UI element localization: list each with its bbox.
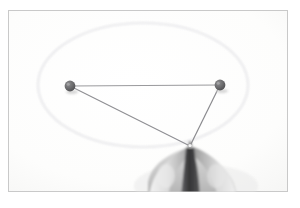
pin-left-highlight <box>67 83 70 86</box>
ellipse-construction-photo <box>0 0 300 208</box>
pin-right-highlight <box>217 82 220 85</box>
thumb-highlight <box>157 164 175 188</box>
index-finger-highlight <box>207 164 225 188</box>
screenshot-root: Ellipse construction with two pins and a… <box>0 0 300 208</box>
photo-canvas <box>0 0 300 208</box>
pin-left-head <box>65 81 76 92</box>
pin-right-head <box>215 80 226 91</box>
pencil-point-marker <box>188 144 191 147</box>
